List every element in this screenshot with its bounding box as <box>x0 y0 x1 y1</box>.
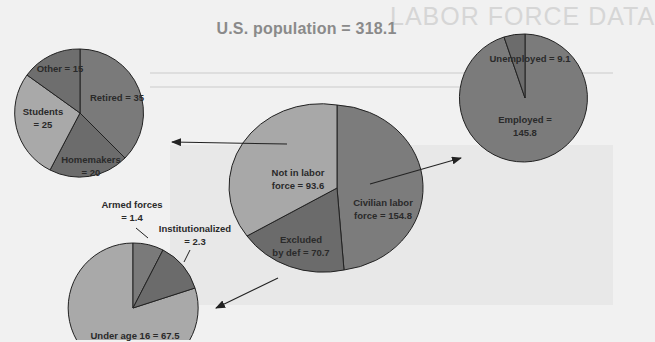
label-line: Under age 16 = 67.5 <box>80 329 190 342</box>
label-retired: Retired = 35 <box>84 91 150 104</box>
label-employed: Employed = 145.8 <box>490 113 560 139</box>
label-line: Institutionalized <box>154 222 236 235</box>
label-not-in-labor-force: Not in labor force = 93.6 <box>262 166 334 192</box>
label-line: Not in labor <box>262 166 334 179</box>
arrow-to-excluded-by-def-pie <box>216 278 278 308</box>
label-line: Civilian labor <box>340 196 426 209</box>
label-line: Employed = <box>490 113 560 126</box>
label-line: Homemakers <box>56 153 126 166</box>
label-line: 145.8 <box>490 126 560 139</box>
label-line: by def = 70.7 <box>262 246 340 259</box>
label-homemakers: Homemakers = 20 <box>56 153 126 179</box>
label-line: force = 93.6 <box>262 179 334 192</box>
label-line: = 2.3 <box>154 235 236 248</box>
label-unemployed: Unemployed = 9.1 <box>480 52 580 65</box>
label-line: Excluded <box>262 233 340 246</box>
excluded-by-def-pie <box>68 243 198 340</box>
label-line: = 20 <box>56 166 126 179</box>
label-other: Other = 15 <box>30 62 90 75</box>
label-line: = 25 <box>14 118 72 131</box>
leader-line-armed-forces <box>136 228 148 238</box>
leader-line-institutionalized <box>184 250 190 262</box>
label-line: Unemployed = 9.1 <box>480 52 580 65</box>
label-line: Students <box>14 105 72 118</box>
label-civilian-labor-force: Civilian labor force = 154.8 <box>340 196 426 222</box>
label-under-age-16: Under age 16 = 67.5 <box>80 329 190 342</box>
label-line: force = 154.8 <box>340 209 426 222</box>
slice-civilian-labor-force <box>337 105 423 270</box>
label-line: Retired = 35 <box>84 91 150 104</box>
label-armed-forces: Armed forces = 1.4 <box>95 198 169 224</box>
label-students: Students = 25 <box>14 105 72 131</box>
label-institutionalized: Institutionalized = 2.3 <box>154 222 236 248</box>
label-line: Other = 15 <box>30 62 90 75</box>
label-excluded-by-def: Excluded by def = 70.7 <box>262 233 340 259</box>
label-line: Armed forces <box>95 198 169 211</box>
